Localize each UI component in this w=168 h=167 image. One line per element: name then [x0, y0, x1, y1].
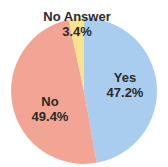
label-yes: Yes 47.2% [107, 70, 144, 100]
label-no-answer: No Answer 3.4% [43, 9, 110, 39]
label-no-answer-name: No Answer [43, 9, 110, 24]
label-no-value: 49.4% [32, 109, 69, 124]
label-no-name: No [32, 94, 69, 109]
label-yes-value: 47.2% [107, 85, 144, 100]
label-yes-name: Yes [107, 70, 144, 85]
label-no: No 49.4% [32, 94, 69, 124]
label-no-answer-value: 3.4% [43, 24, 110, 39]
